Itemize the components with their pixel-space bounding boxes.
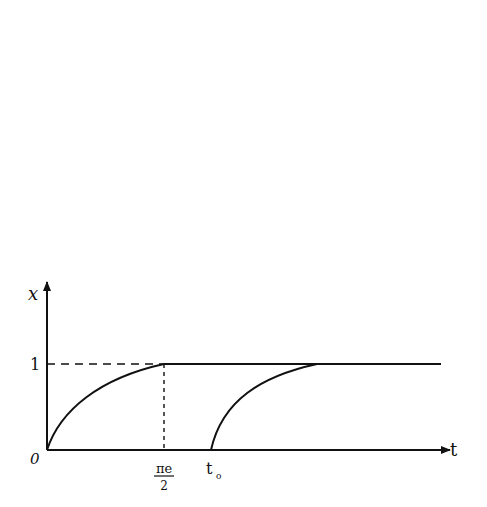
curve-1 <box>47 364 164 450</box>
diagram: x t 0 1 πe 2 t o <box>0 0 487 507</box>
x-tick-pi-e-denominator: 2 <box>160 479 168 493</box>
x-tick-t0: t <box>206 459 213 478</box>
x-tick-t0-subscript: o <box>216 471 221 481</box>
x-axis-label: t <box>450 439 458 460</box>
curve-2 <box>211 364 317 450</box>
origin-label: 0 <box>30 450 40 468</box>
x-tick-pi-e-numerator: πe <box>156 461 173 476</box>
y-tick-label-1: 1 <box>30 355 40 374</box>
y-axis-label: x <box>28 283 38 304</box>
